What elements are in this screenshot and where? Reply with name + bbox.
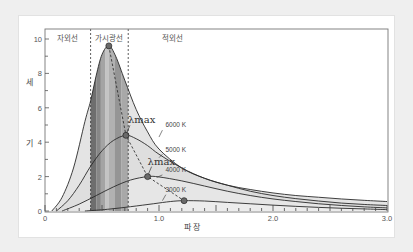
y-axis-label-2: 기 — [26, 139, 33, 148]
curve-temperature-label: 5000 K — [165, 146, 186, 153]
lambda-max-label: λmax — [128, 114, 156, 125]
y-tick-label: 10 — [34, 35, 42, 44]
peak-marker — [181, 198, 187, 204]
y-tick-label: 4 — [38, 138, 42, 147]
y-axis-label-1: 세 — [26, 78, 33, 87]
blackbody-radiation-chart: 024681001.02.03.0파 장세기자외선가시광선적외선λmaxλmax… — [0, 0, 413, 252]
spectrum-band — [96, 29, 101, 211]
peak-marker — [145, 174, 151, 180]
curve-temperature-label: 3000 K — [165, 186, 186, 193]
region-label: 적외선 — [162, 33, 183, 43]
curve-temperature-label: 4000 K — [165, 166, 186, 173]
curve-label-leader — [159, 130, 162, 137]
visible-spectrum-bands — [91, 29, 129, 211]
lambda-max-label: λmax — [148, 156, 176, 167]
x-axis-label: 파 장 — [184, 222, 202, 232]
y-tick-label: 8 — [38, 69, 42, 78]
region-label: 가시광선 — [95, 33, 123, 43]
spectrum-band — [109, 29, 115, 211]
curve-temperature-label: 6000 K — [165, 121, 186, 128]
y-tick-label: 6 — [38, 104, 42, 113]
y-tick-label: 2 — [38, 173, 42, 182]
x-tick-label: 0 — [43, 214, 47, 223]
spectrum-band — [91, 29, 97, 211]
peak-marker — [106, 43, 112, 49]
region-label: 자외선 — [57, 33, 78, 43]
x-tick-label: 2.0 — [268, 214, 278, 223]
spectrum-band — [105, 29, 108, 211]
x-tick-label: 1.0 — [154, 214, 164, 223]
x-tick-label: 3.0 — [382, 214, 392, 223]
y-tick-label: 0 — [38, 207, 42, 216]
